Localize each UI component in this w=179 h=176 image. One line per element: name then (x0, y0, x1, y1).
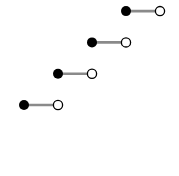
closed-dot-icon (121, 6, 131, 16)
step-segment-3 (121, 6, 165, 16)
open-dot-icon (121, 38, 130, 47)
step-segment-2 (87, 37, 131, 47)
closed-dot-icon (87, 37, 97, 47)
step-segment-0 (19, 100, 63, 110)
open-dot-icon (87, 69, 96, 78)
step-segment-1 (53, 69, 97, 79)
step-function-chart (0, 0, 179, 176)
open-dot-icon (155, 6, 164, 15)
closed-dot-icon (19, 100, 29, 110)
open-dot-icon (53, 100, 62, 109)
closed-dot-icon (53, 69, 63, 79)
